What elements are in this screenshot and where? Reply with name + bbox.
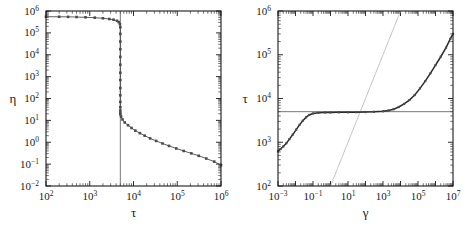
svg-text:104: 104 bbox=[24, 47, 39, 60]
svg-text:104: 104 bbox=[126, 189, 141, 202]
right-reference-lines bbox=[278, 11, 453, 186]
left-tick-marks bbox=[46, 11, 221, 186]
svg-text:105: 105 bbox=[170, 189, 185, 202]
svg-text:105: 105 bbox=[411, 189, 426, 202]
svg-text:10−1: 10−1 bbox=[20, 157, 39, 170]
panel-tau-vs-gamma: 10−310−1101103105107 102103104105106 γ τ bbox=[234, 0, 469, 226]
svg-text:103: 103 bbox=[376, 189, 391, 202]
svg-text:105: 105 bbox=[256, 47, 271, 60]
svg-text:10−3: 10−3 bbox=[269, 189, 288, 202]
right-y-tick-labels: 102103104105106 bbox=[256, 4, 271, 192]
svg-text:10−2: 10−2 bbox=[20, 179, 39, 192]
plot-left-svg: 102103104105106 10−210−11001011021031041… bbox=[0, 0, 235, 226]
svg-text:104: 104 bbox=[256, 91, 271, 104]
right-y-axis-title: τ bbox=[242, 91, 247, 106]
left-x-axis-title: τ bbox=[131, 205, 136, 220]
svg-text:102: 102 bbox=[24, 91, 39, 104]
svg-text:10−1: 10−1 bbox=[304, 189, 323, 202]
svg-text:103: 103 bbox=[256, 135, 271, 148]
right-data-markers bbox=[277, 33, 454, 153]
right-data-curve bbox=[278, 34, 453, 151]
left-data-markers bbox=[45, 15, 223, 166]
panel-eta-vs-tau: 102103104105106 10−210−11001011021031041… bbox=[0, 0, 235, 226]
svg-text:106: 106 bbox=[214, 189, 229, 202]
svg-text:106: 106 bbox=[24, 4, 39, 17]
left-y-axis-title: η bbox=[10, 91, 17, 106]
svg-text:103: 103 bbox=[82, 189, 97, 202]
svg-text:101: 101 bbox=[24, 113, 39, 126]
left-plot-frame bbox=[46, 11, 221, 186]
right-x-tick-labels: 10−310−1101103105107 bbox=[269, 189, 461, 202]
svg-text:106: 106 bbox=[256, 4, 271, 17]
svg-text:102: 102 bbox=[39, 189, 54, 202]
left-x-tick-labels: 102103104105106 bbox=[39, 189, 229, 202]
svg-text:107: 107 bbox=[446, 189, 461, 202]
left-data-curve bbox=[46, 17, 221, 165]
svg-text:103: 103 bbox=[24, 69, 39, 82]
svg-text:101: 101 bbox=[341, 189, 356, 202]
left-y-tick-labels: 10−210−1100101102103104105106 bbox=[20, 4, 39, 192]
plot-right-svg: 10−310−1101103105107 102103104105106 γ τ bbox=[234, 0, 469, 226]
two-panel-figure: 102103104105106 10−210−11001011021031041… bbox=[0, 0, 469, 226]
svg-text:100: 100 bbox=[24, 135, 39, 148]
right-x-axis-title: γ bbox=[362, 205, 369, 220]
svg-text:105: 105 bbox=[24, 25, 39, 38]
